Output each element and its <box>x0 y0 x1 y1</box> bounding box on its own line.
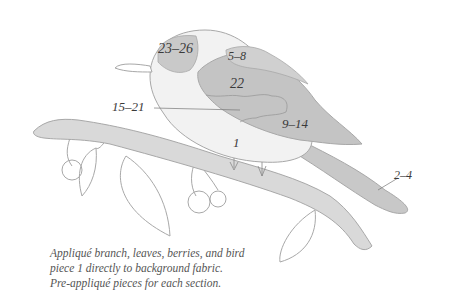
bird-beak <box>115 64 152 72</box>
label-22: 22 <box>230 76 244 91</box>
label-15-21: 15–21 <box>112 99 145 114</box>
berry-center-left <box>188 191 210 213</box>
caption-line-2: piece 1 directly to background fabric. <box>50 261 244 276</box>
leaf-right <box>280 210 316 262</box>
caption: Appliqué branch, leaves, berries, and bi… <box>50 246 244 291</box>
label-1: 1 <box>233 135 240 150</box>
berry-center-right <box>210 191 226 207</box>
leaf-left-large <box>120 156 170 236</box>
caption-line-3: Pre-appliqué pieces for each section. <box>50 276 244 291</box>
label-23-26: 23–26 <box>158 41 193 56</box>
label-2-4: 2–4 <box>394 168 412 182</box>
caption-line-1: Appliqué branch, leaves, berries, and bi… <box>50 246 244 261</box>
berry-left <box>62 160 82 180</box>
label-5-8: 5–8 <box>228 49 246 63</box>
label-9-14: 9–14 <box>282 116 309 131</box>
